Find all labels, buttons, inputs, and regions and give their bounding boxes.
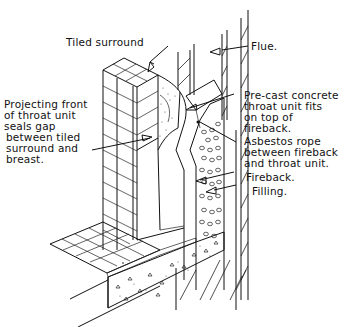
flue-walls bbox=[178, 10, 248, 310]
svg-text:and throat unit.: and throat unit. bbox=[244, 157, 329, 169]
labels: Tiled surround Flue. Pre-cast concrete t… bbox=[4, 36, 339, 197]
fireplace-diagram: Tiled surround Flue. Pre-cast concrete t… bbox=[0, 0, 349, 327]
label-flue: Flue. bbox=[251, 40, 277, 52]
label-precast-throat: Pre-cast concrete throat unit fits on to… bbox=[244, 89, 339, 134]
svg-text:fireback.: fireback. bbox=[244, 122, 291, 134]
label-tiled-surround: Tiled surround bbox=[65, 36, 144, 48]
label-filling: Filling. bbox=[252, 185, 287, 197]
leader-lines bbox=[92, 46, 248, 194]
fireback-filling bbox=[137, 98, 224, 290]
tiled-surround bbox=[103, 58, 158, 250]
label-projecting-front: Projecting front of throat unit seals ga… bbox=[4, 98, 88, 165]
label-asbestos-rope: Asbestos rope between fireback and throa… bbox=[244, 135, 339, 169]
label-fireback: Fireback. bbox=[246, 171, 295, 183]
svg-text:breast.: breast. bbox=[6, 153, 44, 165]
